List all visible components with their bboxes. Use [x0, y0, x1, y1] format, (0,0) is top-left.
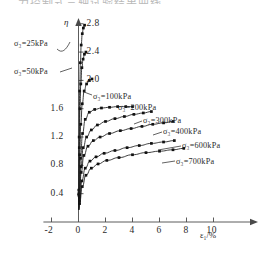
series-700kpa: [78, 147, 185, 210]
data-point-marker: [138, 144, 141, 147]
data-point-marker: [97, 163, 100, 166]
series-label-100kpa: σ₃=100kPa: [93, 93, 131, 101]
leader-line-300kpa: [134, 121, 142, 124]
data-point-marker: [93, 108, 96, 111]
data-point-marker: [82, 27, 85, 30]
y-tick-label: 1.6: [51, 104, 64, 114]
data-point-marker: [92, 139, 95, 142]
data-point-marker: [118, 156, 121, 159]
data-point-marker: [172, 148, 175, 151]
data-point-marker: [99, 136, 102, 139]
data-point-marker: [89, 160, 92, 163]
data-point-marker: [88, 111, 91, 114]
data-point-marker: [79, 123, 82, 126]
data-point-marker: [108, 106, 111, 109]
data-point-marker: [81, 66, 84, 69]
data-point-marker: [96, 124, 99, 127]
data-point-marker: [82, 146, 85, 149]
data-point-marker: [79, 83, 82, 86]
data-point-marker: [85, 174, 88, 177]
x-tick-label: 4: [130, 226, 135, 236]
data-point-marker: [114, 149, 117, 152]
data-point-marker: [79, 107, 82, 110]
data-point-marker: [87, 145, 90, 148]
data-point-marker: [79, 61, 82, 64]
y-tick-label: 2.0: [87, 75, 100, 85]
y-axis-label: η: [64, 18, 68, 27]
leader-line-400kpa: [153, 132, 162, 135]
leader-line-700kpa: [162, 161, 175, 163]
data-point-marker: [173, 139, 176, 142]
data-point-marker: [145, 151, 148, 154]
data-point-marker: [106, 159, 109, 162]
data-point-marker: [83, 154, 86, 157]
data-point-marker: [126, 146, 129, 149]
data-point-marker: [103, 152, 106, 155]
data-point-marker: [114, 117, 117, 120]
data-point-marker: [81, 185, 84, 188]
data-point-marker: [130, 127, 133, 130]
data-point-marker: [84, 118, 87, 121]
data-point-marker: [131, 153, 134, 156]
x-tick-label: 8: [184, 226, 189, 236]
data-point-marker: [81, 32, 84, 35]
data-point-marker: [81, 102, 84, 105]
x-axis-arrow: [250, 219, 258, 225]
y-tick-label: 1.2: [51, 132, 64, 142]
y-tick-label: 0.4: [51, 189, 64, 199]
data-point-marker: [123, 115, 126, 118]
data-point-marker: [150, 142, 153, 145]
series-400kpa: [78, 120, 174, 210]
data-point-marker: [82, 58, 85, 61]
data-point-marker: [84, 167, 87, 170]
series-label-300kpa: σ₃=300kPa: [143, 117, 181, 125]
data-point-marker: [90, 167, 93, 170]
data-point-marker: [108, 132, 111, 135]
data-point-marker: [81, 180, 84, 183]
data-point-marker: [79, 157, 82, 160]
data-point-marker: [141, 125, 144, 128]
x-tick-label: 0: [76, 226, 81, 236]
data-point-marker: [81, 132, 84, 135]
leader-line-25kpa: [57, 42, 70, 51]
series-label-25kpa: σ₃=25kPa: [14, 40, 48, 48]
y-tick-label: 2.8: [87, 19, 100, 29]
data-point-marker: [162, 141, 165, 144]
y-tick-label: 2.4: [87, 47, 100, 57]
data-point-marker: [78, 202, 81, 205]
data-point-marker: [78, 153, 81, 156]
series-line: [79, 121, 173, 210]
data-point-marker: [133, 113, 136, 116]
x-axis-label: ε₁/%: [200, 231, 216, 240]
leader-line-100kpa: [84, 92, 92, 95]
x-tick-label: -2: [45, 226, 54, 236]
data-point-marker: [90, 129, 93, 132]
data-point-marker: [100, 107, 103, 110]
x-tick-label: 2: [103, 226, 108, 236]
figure-page: 二 力控制式三轴试验结果曲线 -202468100.40.81.21.62.02…: [0, 0, 266, 257]
data-point-marker: [85, 136, 88, 139]
data-point-marker: [80, 171, 83, 174]
series-label-50kpa: σ₃=50kPa: [14, 68, 48, 76]
y-tick-label: 0.8: [51, 160, 64, 170]
data-point-marker: [104, 120, 107, 123]
series-label-200kpa: σ₃=200kPa: [118, 104, 156, 112]
data-point-marker: [80, 44, 83, 47]
series-label-700kpa: σ₃=700kPa: [176, 158, 214, 166]
series-label-600kpa: σ₃=600kPa: [182, 142, 220, 150]
leader-line-50kpa: [60, 68, 72, 72]
data-point-marker: [119, 129, 122, 132]
y-axis-arrow: [75, 18, 81, 26]
x-tick-label: 6: [157, 226, 162, 236]
series-label-400kpa: σ₃=400kPa: [163, 128, 201, 136]
data-point-marker: [95, 156, 98, 159]
